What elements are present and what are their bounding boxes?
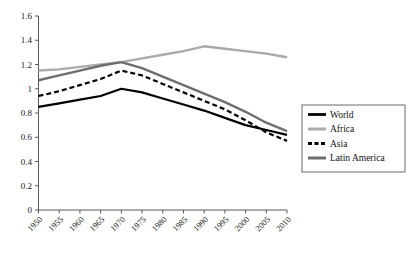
legend-label-asia: Asia: [330, 139, 348, 149]
x-axis: 1950195519601965197019751980198519901995…: [25, 210, 293, 233]
y-axis-tick-label: 0.6: [21, 132, 33, 142]
y-axis-tick-label: 1.2: [21, 60, 32, 70]
x-axis-tick-label: 1950: [25, 214, 44, 233]
x-axis-tick-label: 2010: [274, 214, 293, 233]
x-axis-tick-label: 1965: [87, 214, 106, 233]
line-chart: 1.61.41.210.80.60.40.20 1950195519601965…: [0, 0, 411, 257]
x-axis-tick-label: 1985: [170, 214, 189, 233]
legend-label-latin-america: Latin America: [330, 153, 385, 163]
x-axis-tick-label: 1980: [150, 214, 169, 233]
x-axis-tick-label: 1960: [67, 214, 86, 233]
x-axis-tick-label: 1975: [129, 214, 148, 233]
x-axis-tick-label: 2005: [253, 214, 272, 233]
x-axis-tick-label: 1955: [46, 214, 65, 233]
series-line-africa: [39, 46, 288, 70]
series-lines: [39, 46, 288, 141]
x-axis-tick-label: 2000: [232, 214, 251, 233]
x-axis-tick-label: 1990: [191, 214, 210, 233]
x-axis-tick-label: 1995: [212, 214, 231, 233]
x-axis-tick-label: 1970: [108, 214, 127, 233]
series-line-world: [39, 89, 288, 135]
series-line-asia: [39, 71, 288, 141]
y-axis-tick-label: 0: [28, 205, 33, 215]
y-axis: 1.61.41.210.80.60.40.20: [21, 11, 39, 215]
chart-canvas: 1.61.41.210.80.60.40.20 1950195519601965…: [0, 0, 411, 257]
y-axis-tick-label: 1.6: [21, 11, 33, 21]
y-axis-tick-label: 0.8: [21, 108, 33, 118]
y-axis-tick-label: 1: [28, 84, 33, 94]
series-line-latin-america: [39, 62, 288, 131]
legend-label-world: World: [330, 110, 354, 120]
y-axis-tick-label: 0.4: [21, 157, 33, 167]
chart-legend: WorldAfricaAsiaLatin America: [302, 105, 405, 172]
y-axis-tick-label: 0.2: [21, 181, 32, 191]
legend-label-africa: Africa: [330, 124, 355, 134]
y-axis-tick-label: 1.4: [21, 35, 33, 45]
